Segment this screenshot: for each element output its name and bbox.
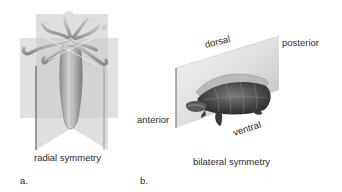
caption-bilateral-symmetry: bilateral symmetry xyxy=(193,157,270,167)
panel-letter-b: b. xyxy=(140,176,148,186)
label-posterior: posterior xyxy=(282,38,319,48)
bilateral-symmetry-illustration xyxy=(0,0,342,192)
label-anterior: anterior xyxy=(137,115,169,125)
